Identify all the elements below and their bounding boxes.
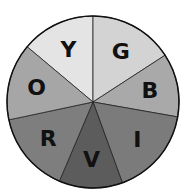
label-violet: V [83,147,100,172]
label-green: G [112,39,130,64]
label-red: R [40,126,57,151]
color-wheel: YGBIVRO [0,0,193,196]
label-yellow: Y [60,37,78,62]
label-blue: B [141,78,158,103]
label-indigo: I [133,127,141,152]
label-orange: O [27,75,46,100]
